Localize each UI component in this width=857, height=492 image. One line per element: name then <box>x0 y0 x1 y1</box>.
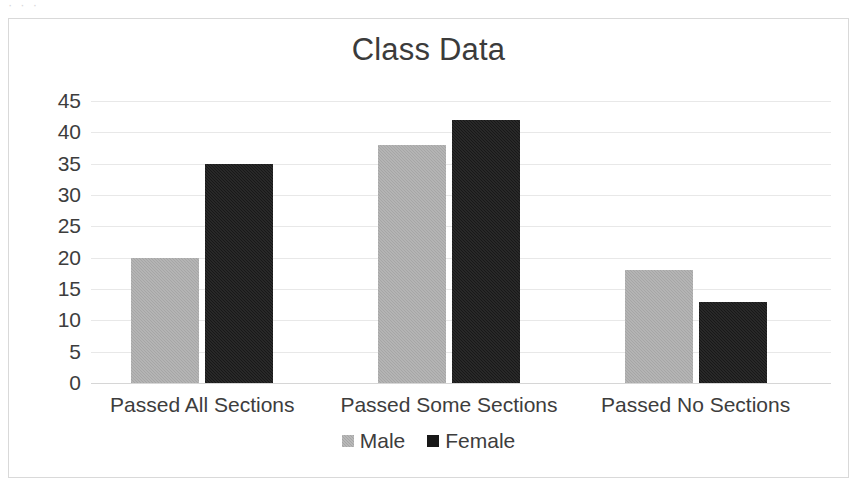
legend-label-male: Male <box>360 429 406 453</box>
gridline-45 <box>91 101 831 102</box>
y-axis-tick-label: 35 <box>58 152 81 176</box>
x-axis-category-label: Passed All Sections <box>110 393 294 417</box>
bar-male-2[interactable] <box>625 270 693 383</box>
legend-label-female: Female <box>445 429 515 453</box>
x-axis-category-label: Passed No Sections <box>601 393 790 417</box>
y-axis-tick-label: 15 <box>58 277 81 301</box>
legend-swatch-male-icon <box>342 435 354 447</box>
bar-female-2[interactable] <box>699 302 767 383</box>
bar-male-0[interactable] <box>131 258 199 383</box>
bar-female-0[interactable] <box>205 164 273 383</box>
x-axis-category-label: Passed Some Sections <box>340 393 557 417</box>
y-axis-tick-label: 0 <box>69 371 81 395</box>
chart-container: Class Data 051015202530354045Passed All … <box>8 18 849 478</box>
chart-legend: Male Female <box>9 429 848 453</box>
chart-title: Class Data <box>9 32 848 68</box>
legend-item-male[interactable]: Male <box>342 429 406 453</box>
legend-swatch-female-icon <box>427 435 439 447</box>
bar-female-1[interactable] <box>452 120 520 383</box>
plot-area: 051015202530354045Passed All SectionsPas… <box>91 101 831 383</box>
y-axis-tick-label: 10 <box>58 308 81 332</box>
y-axis-tick-label: 25 <box>58 214 81 238</box>
legend-item-female[interactable]: Female <box>427 429 515 453</box>
cropped-text-remnant: · · · <box>0 0 857 9</box>
y-axis-tick-label: 30 <box>58 183 81 207</box>
y-axis-tick-label: 45 <box>58 89 81 113</box>
y-axis-tick-label: 40 <box>58 120 81 144</box>
y-axis-tick-label: 20 <box>58 246 81 270</box>
gridline-0 <box>91 383 831 384</box>
bar-male-1[interactable] <box>378 145 446 383</box>
y-axis-tick-label: 5 <box>69 340 81 364</box>
